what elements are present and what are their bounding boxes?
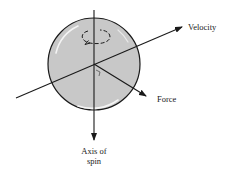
magnus-effect-diagram: Velocity Force Axis of spin	[0, 0, 234, 179]
axis-of-spin-label: Axis of spin	[74, 146, 114, 166]
velocity-label: Velocity	[188, 22, 216, 32]
axis-label-line1: Axis of	[74, 146, 114, 156]
force-label: Force	[157, 94, 176, 104]
axis-label-line2: spin	[74, 156, 114, 166]
